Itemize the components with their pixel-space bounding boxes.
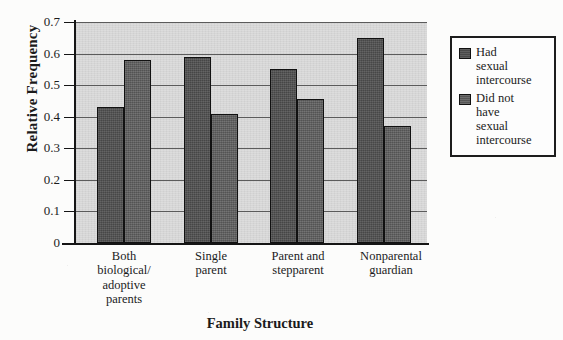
category-label-line: Parent and xyxy=(252,249,344,263)
legend-entry-had-intercourse: Hadsexualintercourse xyxy=(459,45,549,88)
bar-1-2 xyxy=(297,99,324,243)
legend-label-line: sexual xyxy=(476,59,532,73)
y-axis-tick-mark xyxy=(64,211,76,212)
gridline xyxy=(76,22,427,23)
y-axis-tick-label: 0.3 xyxy=(20,141,60,154)
plot-area xyxy=(76,22,427,243)
figure-page: Relative Frequency 0.70.60.50.40.30.20.1… xyxy=(0,0,563,340)
y-axis-tick-label: 0 xyxy=(20,236,60,249)
bar-0-2 xyxy=(270,69,297,243)
legend-label-line: Did not xyxy=(476,91,532,105)
y-axis-title: Relative Frequency xyxy=(24,0,41,189)
legend-label-no-intercourse: Did nothavesexualintercourse xyxy=(476,91,532,148)
category-label-line: Nonparental xyxy=(342,249,440,263)
bar-0-1 xyxy=(184,57,211,243)
legend-label-line: sexual xyxy=(476,119,532,133)
legend-entry-no-intercourse: Did nothavesexualintercourse xyxy=(459,91,549,148)
y-axis-tick-label: 0.5 xyxy=(20,78,60,91)
x-axis-line xyxy=(62,243,429,245)
legend-label-line: intercourse xyxy=(476,73,532,87)
category-label-line: stepparent xyxy=(252,263,344,277)
y-axis-tick-mark xyxy=(64,148,76,149)
y-axis-tick-label: 0.6 xyxy=(20,47,60,60)
legend-label-line: have xyxy=(476,105,532,119)
bar-1-1 xyxy=(211,114,238,243)
legend-swatch-had-intercourse-icon xyxy=(459,48,471,59)
x-axis-title: Family Structure xyxy=(150,315,370,332)
y-axis-tick-mark xyxy=(64,22,76,23)
category-label-line: adoptive xyxy=(78,278,170,292)
legend-label-line: intercourse xyxy=(476,133,532,147)
chart-title xyxy=(60,0,450,3)
bar-1-0 xyxy=(124,60,151,243)
x-axis-category-label: Nonparentalguardian xyxy=(342,249,440,278)
bar-0-0 xyxy=(97,107,124,243)
x-axis-category-label: Singleparent xyxy=(168,249,254,278)
category-label-line: parent xyxy=(168,263,254,277)
y-axis-tick-mark xyxy=(64,243,76,244)
y-axis-tick-mark xyxy=(64,85,76,86)
legend-label-line: Had xyxy=(476,45,532,59)
bar-0-3 xyxy=(357,38,384,243)
y-axis-tick-label: 0.4 xyxy=(20,110,60,123)
category-label-line: biological/ xyxy=(78,263,170,277)
category-label-line: guardian xyxy=(342,263,440,277)
category-label-line: Single xyxy=(168,249,254,263)
y-axis-tick-mark xyxy=(64,117,76,118)
x-axis-category-label: Bothbiological/adoptiveparents xyxy=(78,249,170,307)
category-label-line: Both xyxy=(78,249,170,263)
y-axis-tick-mark xyxy=(64,54,76,55)
category-label-line: parents xyxy=(78,292,170,306)
y-axis-tick-label: 0.1 xyxy=(20,204,60,217)
y-axis-tick-mark xyxy=(64,180,76,181)
bar-1-3 xyxy=(384,126,411,243)
y-axis-tick-label: 0.7 xyxy=(20,15,60,28)
legend-swatch-no-intercourse-icon xyxy=(459,94,471,105)
legend-label-had-intercourse: Hadsexualintercourse xyxy=(476,45,532,88)
x-axis-category-label: Parent andstepparent xyxy=(252,249,344,278)
legend-box: Hadsexualintercourse Did nothavesexualin… xyxy=(450,36,556,157)
y-axis-tick-label: 0.2 xyxy=(20,173,60,186)
